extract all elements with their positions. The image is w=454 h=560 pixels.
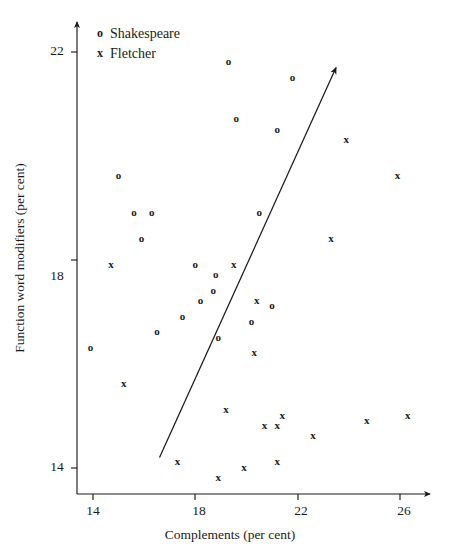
- data-point-x: x: [262, 419, 268, 431]
- series-shakespeare: ooooooooooooooooooo: [88, 55, 296, 353]
- data-point-o: o: [213, 268, 219, 280]
- legend-symbol-fletcher: x: [97, 46, 103, 60]
- data-point-x: x: [223, 403, 229, 415]
- data-point-x: x: [344, 133, 350, 145]
- data-point-x: x: [280, 409, 286, 421]
- x-tick-label: 18: [192, 503, 206, 518]
- data-point-o: o: [88, 341, 94, 353]
- x-tick-label: 22: [294, 503, 308, 518]
- series-fletcher: xxxxxxxxxxxxxxxxxxx: [108, 133, 411, 483]
- y-tick-label: 18: [50, 268, 64, 283]
- data-point-x: x: [364, 414, 370, 426]
- legend-label-shakespeare: Shakespeare: [110, 26, 180, 41]
- data-point-o: o: [154, 325, 160, 337]
- data-point-o: o: [274, 123, 280, 135]
- data-point-o: o: [290, 71, 296, 83]
- y-tick-label: 22: [50, 43, 64, 58]
- data-point-layer: oooooooooooooooooooxxxxxxxxxxxxxxxxxxx: [88, 55, 411, 483]
- data-point-x: x: [328, 232, 334, 244]
- data-point-x: x: [254, 294, 260, 306]
- data-point-x: x: [395, 169, 401, 181]
- data-point-x: x: [274, 419, 280, 431]
- legend-symbol-shakespeare: o: [97, 26, 103, 40]
- data-point-x: x: [310, 429, 316, 441]
- x-tick-label: 26: [397, 503, 411, 518]
- discriminant-axis: [160, 68, 337, 458]
- data-point-x: x: [175, 455, 181, 467]
- y-tick-labels: 22 18 14: [50, 43, 64, 474]
- data-point-x: x: [241, 461, 247, 473]
- data-point-o: o: [131, 206, 137, 218]
- data-point-o: o: [226, 55, 232, 67]
- data-point-o: o: [193, 258, 199, 270]
- y-axis-title: Function word modifiers (per cent): [12, 163, 27, 353]
- legend: o Shakespeare x Fletcher: [97, 26, 180, 61]
- data-point-o: o: [257, 206, 263, 218]
- x-tick-labels: 14 18 22 26: [86, 503, 411, 518]
- y-tick-label: 14: [50, 459, 64, 474]
- x-axis-title: Complements (per cent): [165, 527, 295, 542]
- data-point-x: x: [231, 258, 237, 270]
- data-point-o: o: [216, 331, 222, 343]
- plot-canvas: 22 18 14 14 18 22 26 Complements (per ce…: [0, 0, 454, 560]
- figure-scatter-plot: 22 18 14 14 18 22 26 Complements (per ce…: [0, 0, 454, 560]
- data-point-x: x: [108, 258, 114, 270]
- data-point-x: x: [274, 455, 280, 467]
- x-axis-ticks: [93, 494, 400, 500]
- data-point-o: o: [116, 169, 122, 181]
- data-point-x: x: [121, 377, 127, 389]
- x-tick-label: 14: [86, 503, 100, 518]
- data-point-o: o: [149, 206, 155, 218]
- caption-strip: [0, 542, 454, 560]
- y-axis-ticks: [71, 52, 77, 468]
- data-point-o: o: [249, 315, 255, 327]
- legend-label-fletcher: Fletcher: [110, 46, 156, 61]
- data-point-x: x: [405, 409, 411, 421]
- data-point-o: o: [139, 232, 145, 244]
- data-point-o: o: [180, 310, 186, 322]
- data-point-o: o: [198, 294, 204, 306]
- data-point-o: o: [234, 112, 240, 124]
- data-point-o: o: [210, 284, 216, 296]
- data-point-o: o: [269, 299, 275, 311]
- data-point-x: x: [216, 471, 222, 483]
- annotation-layer: [160, 68, 337, 458]
- data-point-x: x: [251, 346, 257, 358]
